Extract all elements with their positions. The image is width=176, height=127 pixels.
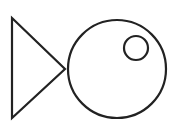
fish-tail-triangle [12,18,65,118]
fish-eye-circle [124,36,148,60]
fish-body-circle [68,20,166,118]
fish-drawing [0,0,176,127]
